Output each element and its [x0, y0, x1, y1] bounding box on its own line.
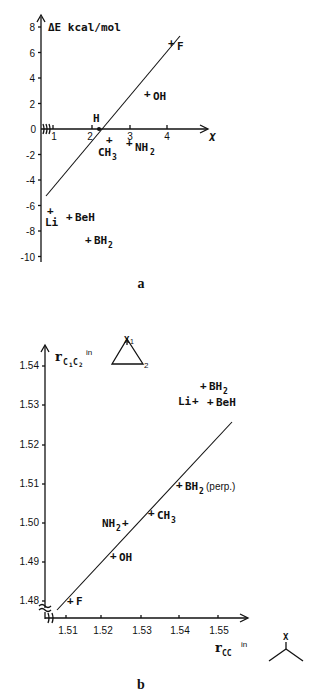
svg-text:1.53: 1.53 [20, 399, 40, 410]
y-tick-labels-a: 8 6 4 2 0 -2 -4 -6 -8 -10 [21, 22, 37, 263]
data-points-a: + F + OH H + CH 3 + NH 2 + [45, 36, 184, 250]
svg-text:BH: BH [209, 380, 222, 393]
svg-text:+: + [67, 594, 74, 607]
svg-text:-10: -10 [21, 252, 36, 263]
svg-text:CH: CH [98, 146, 111, 159]
point-BeH: + BeH [66, 210, 95, 224]
svg-text:+: + [168, 36, 175, 49]
svg-text:r: r [215, 640, 222, 655]
svg-text:+: + [176, 478, 183, 491]
panel-caption-a: a [138, 276, 145, 291]
point-F: + F [168, 36, 184, 53]
svg-text:BH: BH [94, 234, 107, 247]
svg-text:X: X [283, 632, 289, 642]
svg-text:2: 2 [150, 148, 155, 157]
svg-text:1: 1 [130, 338, 134, 345]
svg-text:C: C [63, 358, 68, 367]
svg-text:2: 2 [199, 487, 204, 496]
svg-text:-2: -2 [26, 150, 35, 161]
svg-text:CC: CC [222, 649, 232, 658]
fit-line-b [57, 422, 232, 610]
svg-text:+: + [106, 133, 113, 146]
point-CH3: + CH 3 [148, 506, 176, 525]
svg-text:2: 2 [116, 524, 121, 533]
svg-text:1: 1 [51, 131, 57, 142]
point-BH2: + BH 2 [85, 233, 113, 250]
svg-text:-6: -6 [26, 201, 35, 212]
point-BH2: + BH 2 [200, 379, 228, 396]
point-Li: Li + [178, 394, 199, 408]
svg-text:1.54: 1.54 [170, 625, 190, 636]
svg-text:1.49: 1.49 [20, 556, 40, 567]
svg-text:4: 4 [29, 73, 35, 84]
svg-text:BeH: BeH [216, 396, 236, 409]
data-points-b: Li + + BH 2 + BeH + BH 2 (perp.) + CH 3 [67, 379, 236, 608]
svg-text:+: + [85, 233, 92, 246]
point-NH2: NH 2 + [102, 516, 129, 533]
svg-text:OH: OH [119, 551, 132, 564]
trigonal-fragment-icon: X [269, 632, 303, 661]
point-CH3: + CH 3 [98, 133, 117, 162]
svg-text:2: 2 [223, 387, 228, 396]
svg-text:2: 2 [29, 99, 35, 110]
panel-caption-b: b [137, 677, 145, 692]
svg-text:+: + [110, 549, 117, 562]
point-BeH: + BeH [207, 395, 236, 409]
x-tick-labels-b: 1.51 1.52 1.53 1.54 1.55 [58, 625, 229, 636]
svg-text:NH: NH [102, 517, 115, 530]
y-axis-label-b: r C 1 C 2 in [55, 348, 92, 368]
svg-text:NH: NH [135, 141, 148, 154]
svg-text:+: + [122, 516, 129, 529]
figure: 8 6 4 2 0 -2 -4 -6 -8 -10 1 2 3 4 ΔE kca… [0, 0, 321, 697]
svg-text:6: 6 [29, 48, 35, 59]
svg-text:2: 2 [108, 241, 113, 250]
svg-text:BeH: BeH [75, 211, 95, 224]
svg-text:+: + [66, 210, 73, 223]
svg-text:8: 8 [29, 22, 35, 33]
point-F: + F [67, 594, 83, 608]
svg-text:+: + [126, 136, 133, 149]
svg-text:1.52: 1.52 [20, 439, 40, 450]
svg-text:-4: -4 [26, 175, 35, 186]
svg-text:CH: CH [157, 509, 170, 522]
panel-a: 8 6 4 2 0 -2 -4 -6 -8 -10 1 2 3 4 ΔE kca… [21, 15, 216, 291]
point-OH: + OH [110, 549, 132, 564]
cyclopropane-structure-icon: X 1 2 [112, 335, 149, 370]
svg-text:H: H [93, 112, 100, 125]
svg-text:BH: BH [185, 480, 198, 493]
fit-line-a [46, 36, 180, 196]
svg-text:+: + [207, 395, 214, 408]
svg-text:0: 0 [30, 124, 36, 135]
point-OH: + OH [144, 87, 166, 103]
y-tick-labels-b: 1.54 1.53 1.52 1.51 1.50 1.49 1.48 [20, 360, 40, 606]
svg-text:1.50: 1.50 [20, 517, 40, 528]
svg-text:1.48: 1.48 [20, 595, 40, 606]
svg-text:+: + [200, 379, 207, 392]
svg-text:F: F [177, 40, 184, 53]
svg-text:1.53: 1.53 [132, 625, 152, 636]
svg-text:+: + [144, 87, 151, 100]
svg-text:OH: OH [153, 90, 166, 103]
svg-text:-8: -8 [26, 226, 35, 237]
svg-text:C: C [73, 358, 78, 367]
svg-text:+: + [148, 506, 155, 519]
point-BH2-perp: + BH 2 (perp.) [176, 478, 235, 496]
svg-text:+: + [192, 394, 199, 407]
svg-text:2: 2 [79, 361, 83, 368]
svg-text:1.51: 1.51 [20, 478, 40, 489]
svg-text:in: in [86, 348, 92, 357]
svg-text:Li: Li [45, 216, 59, 229]
svg-text:2: 2 [144, 361, 149, 370]
svg-text:r: r [55, 349, 62, 364]
svg-text:F: F [76, 595, 83, 608]
svg-text:(perp.): (perp.) [206, 481, 235, 492]
point-H: H [93, 112, 101, 131]
point-NH2: + NH 2 [126, 136, 155, 157]
svg-text:1.52: 1.52 [93, 625, 113, 636]
svg-text:in: in [241, 640, 247, 649]
svg-text:3: 3 [171, 516, 176, 525]
point-Li: + Li [45, 204, 59, 229]
x-axis-label-b: r CC in [215, 640, 247, 658]
svg-text:3: 3 [112, 153, 117, 162]
svg-text:1.51: 1.51 [58, 625, 78, 636]
